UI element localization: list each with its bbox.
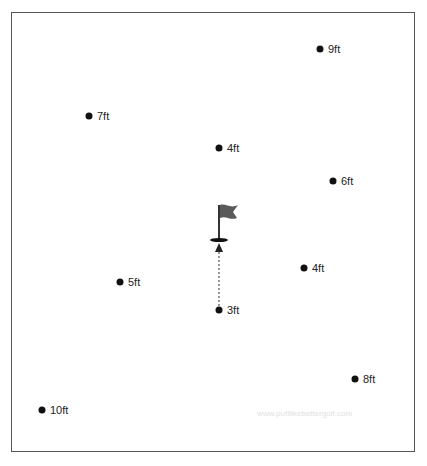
hole-cup-icon <box>210 238 228 242</box>
distance-label: 7ft <box>97 110 109 122</box>
distance-label: 8ft <box>363 373 375 385</box>
ball-marker <box>317 46 324 53</box>
distance-label: 5ft <box>128 276 140 288</box>
distance-label: 10ft <box>50 404 68 416</box>
distance-label: 3ft <box>227 304 239 316</box>
hole-graphic <box>0 0 427 466</box>
ball-marker <box>216 307 223 314</box>
ball-marker <box>117 279 124 286</box>
distance-label: 4ft <box>312 262 324 274</box>
flag-icon <box>219 205 238 240</box>
ball-marker <box>39 407 46 414</box>
ball-marker <box>301 265 308 272</box>
ball-marker <box>216 145 223 152</box>
ball-marker <box>352 376 359 383</box>
distance-label: 6ft <box>341 175 353 187</box>
watermark: www.puttlikebettergolf.com <box>257 409 352 418</box>
ball-marker <box>330 178 337 185</box>
distance-label: 4ft <box>227 142 239 154</box>
putt-path-arrow <box>215 243 223 306</box>
distance-label: 9ft <box>328 43 340 55</box>
ball-marker <box>86 113 93 120</box>
